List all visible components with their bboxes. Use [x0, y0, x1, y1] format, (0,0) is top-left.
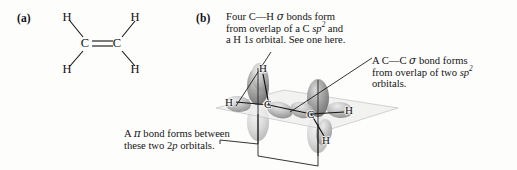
text-frag: and: [325, 23, 343, 34]
annotation-ch-sigma-line3: a H 1s orbital. See one here.: [226, 34, 345, 46]
annotation-ch-sigma-line2: from overlap of a C sp2 and: [226, 23, 345, 35]
panel-label-a: (a): [17, 12, 31, 24]
orbital-label-c-right: C: [307, 108, 314, 120]
text-frag: bonds form: [284, 11, 335, 22]
lewis-atom-h-top-left: H: [61, 10, 73, 25]
orbital-label-h-upper-left-c: H: [259, 62, 267, 74]
text-frag: H: [266, 11, 276, 22]
lewis-atom-c-left: C: [79, 36, 91, 51]
ethene-lewis-structure: H H C C H H: [40, 6, 170, 80]
orbital-label-h-left: H: [225, 96, 233, 108]
text-frag: orbitals.: [178, 140, 215, 151]
orbital-superscript: 2: [469, 65, 473, 73]
lewis-atom-h-bottom-left: H: [61, 62, 73, 77]
text-frag: these two 2: [124, 140, 172, 151]
ethene-sp2-orbital-model: H H C C H H: [212, 52, 402, 170]
annotation-ch-sigma: Four C—H σ bonds form from overlap of a …: [226, 11, 345, 46]
annotation-ch-sigma-line1: Four C—H σ bonds form: [226, 11, 345, 23]
orbital-label-h-right: H: [345, 104, 353, 116]
orbital-label-c-left: C: [264, 98, 271, 110]
lewis-atom-h-top-right: H: [129, 10, 141, 25]
text-frag: A: [124, 128, 134, 139]
em-dash: —: [256, 11, 267, 22]
sigma-symbol: σ: [277, 10, 284, 22]
lewis-atom-h-bottom-right: H: [129, 62, 141, 77]
pi-symbol: π: [134, 127, 141, 139]
panel-label-b: (b): [196, 12, 210, 24]
text-frag: bond forms: [416, 55, 467, 66]
text-frag: a H 1: [226, 34, 249, 45]
figure-root: (a) (b) H H C C H H Four C—H σ bonds for…: [0, 0, 517, 170]
text-frag: orbital. See one here.: [253, 34, 345, 45]
orbital-label-h-lower-right-c: H: [322, 134, 330, 146]
orbital-symbol: sp: [312, 23, 321, 34]
lewis-atom-c-right: C: [111, 36, 123, 51]
text-frag: Four C: [226, 11, 256, 22]
text-frag: from overlap of a C: [226, 23, 312, 34]
orbital-symbol: sp: [460, 67, 469, 78]
